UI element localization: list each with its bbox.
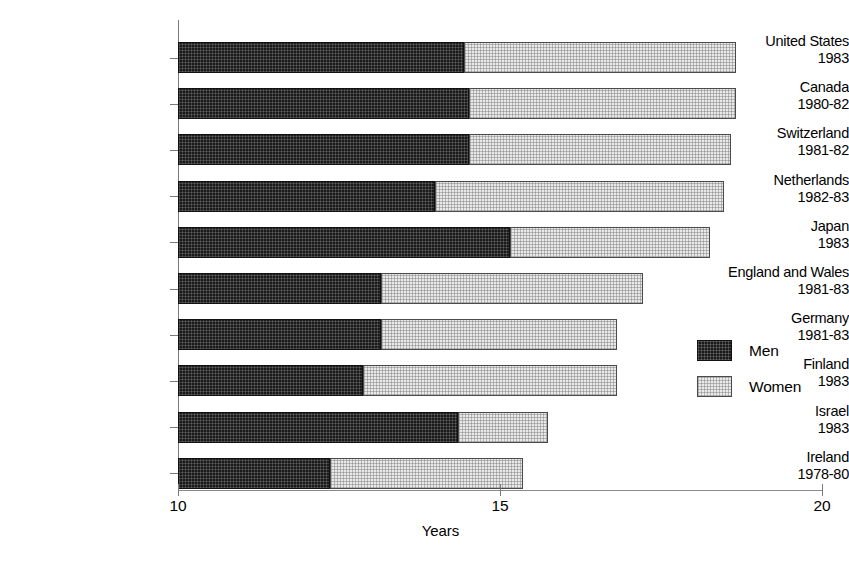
bar-row bbox=[178, 88, 736, 119]
category-label: Ireland1978-80 bbox=[681, 449, 849, 483]
bar-segment-women bbox=[458, 412, 548, 443]
category-name: England and Wales bbox=[681, 264, 849, 281]
bar-segment-men bbox=[178, 273, 381, 304]
bar-segment-men bbox=[178, 227, 510, 258]
legend-label-women: Women bbox=[749, 378, 801, 396]
legend-item-women: Women bbox=[697, 373, 801, 400]
bar-segment-women bbox=[381, 273, 643, 304]
bar-row bbox=[178, 458, 523, 489]
bar-segment-women bbox=[510, 227, 710, 258]
bar-segment-men bbox=[178, 412, 458, 443]
bar-row bbox=[178, 412, 548, 443]
bar-segment-women bbox=[435, 181, 724, 212]
x-axis-tick-label: 20 bbox=[814, 497, 831, 515]
chart-legend: Men Women bbox=[697, 337, 801, 409]
category-label: England and Wales1981-83 bbox=[681, 264, 849, 298]
x-axis-tick bbox=[822, 484, 823, 496]
legend-label-men: Men bbox=[749, 342, 779, 360]
category-years: 1978-80 bbox=[681, 466, 849, 483]
bar-segment-men bbox=[178, 181, 435, 212]
x-axis-tick-label: 15 bbox=[492, 497, 509, 515]
x-axis-tick bbox=[500, 484, 501, 496]
bar-segment-men bbox=[178, 134, 469, 165]
bar-segment-women bbox=[464, 42, 736, 73]
bar-segment-women bbox=[363, 365, 617, 396]
bar-segment-women bbox=[381, 319, 617, 350]
bar-segment-men bbox=[178, 365, 363, 396]
bar-segment-men bbox=[178, 319, 381, 350]
x-axis-tick-label: 10 bbox=[170, 497, 187, 515]
bar-row bbox=[178, 273, 643, 304]
x-axis-title: Years bbox=[0, 522, 849, 539]
legend-item-men: Men bbox=[697, 337, 801, 364]
bar-segment-women bbox=[469, 88, 736, 119]
bar-segment-men bbox=[178, 88, 469, 119]
life-expectancy-stacked-bar-chart: United States1983Canada1980-82Switzerlan… bbox=[0, 0, 849, 562]
bar-segment-men bbox=[178, 42, 464, 73]
category-years: 1981-83 bbox=[681, 281, 849, 298]
legend-swatch-women-icon bbox=[697, 376, 732, 397]
bar-segment-women bbox=[330, 458, 523, 489]
x-axis-title-label: Years bbox=[422, 522, 459, 539]
legend-swatch-men-icon bbox=[697, 340, 732, 361]
category-name: Germany bbox=[681, 310, 849, 327]
category-years: 1983 bbox=[681, 420, 849, 437]
bar-row bbox=[178, 42, 736, 73]
bar-row bbox=[178, 227, 710, 258]
category-name: Ireland bbox=[681, 449, 849, 466]
bar-row bbox=[178, 134, 731, 165]
bar-segment-men bbox=[178, 458, 330, 489]
bar-row bbox=[178, 181, 724, 212]
bar-row bbox=[178, 319, 617, 350]
bar-segment-women bbox=[469, 134, 731, 165]
x-axis-tick bbox=[178, 484, 179, 496]
bar-row bbox=[178, 365, 617, 396]
